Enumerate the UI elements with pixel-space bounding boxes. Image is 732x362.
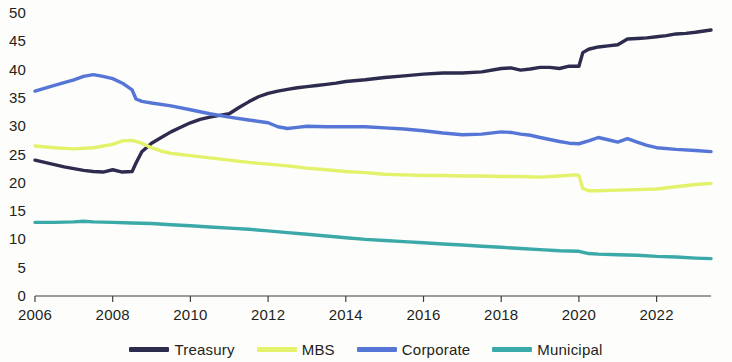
x-axis-tick-label: 2016: [396, 306, 452, 323]
legend-item-corporate[interactable]: Corporate: [357, 341, 471, 358]
legend-label: Municipal: [537, 341, 602, 358]
y-axis-tick-label: 45: [0, 32, 26, 49]
x-axis-tick-label: 2012: [240, 306, 296, 323]
legend-item-treasury[interactable]: Treasury: [129, 341, 234, 358]
x-axis-tick-label: 2008: [85, 306, 141, 323]
legend-item-municipal[interactable]: Municipal: [492, 341, 602, 358]
y-axis-tick-label: 30: [0, 117, 26, 134]
series-layer: [35, 30, 711, 259]
x-axis-tick-label: 2022: [629, 306, 685, 323]
y-axis-tick-label: 0: [0, 287, 26, 304]
legend-item-mbs[interactable]: MBS: [257, 341, 335, 358]
y-axis-tick-label: 10: [0, 230, 26, 247]
series-line-municipal: [35, 221, 711, 258]
legend-swatch-icon: [257, 347, 297, 352]
x-axis-tick-label: 2020: [551, 306, 607, 323]
x-axis-tick-label: 2018: [473, 306, 529, 323]
x-axis-tick-label: 2010: [162, 306, 218, 323]
y-axis-tick-label: 40: [0, 61, 26, 78]
x-axis-tick-label: 2014: [318, 306, 374, 323]
y-axis-tick-label: 50: [0, 4, 26, 21]
y-axis-tick-label: 25: [0, 146, 26, 163]
y-axis-tick-label: 15: [0, 202, 26, 219]
legend-label: Treasury: [174, 341, 234, 358]
axis-layer: [35, 296, 711, 302]
line-chart: 05101520253035404550 2006200820102012201…: [0, 0, 732, 362]
legend-label: Corporate: [402, 341, 471, 358]
y-axis-tick-label: 20: [0, 174, 26, 191]
series-line-treasury: [35, 30, 711, 172]
chart-legend: TreasuryMBSCorporateMunicipal: [0, 336, 732, 362]
legend-swatch-icon: [492, 347, 532, 352]
legend-label: MBS: [302, 341, 335, 358]
y-axis-tick-label: 35: [0, 89, 26, 106]
legend-swatch-icon: [357, 347, 397, 352]
y-axis-tick-label: 5: [0, 259, 26, 276]
legend-swatch-icon: [129, 347, 169, 352]
x-axis-tick-label: 2006: [7, 306, 63, 323]
